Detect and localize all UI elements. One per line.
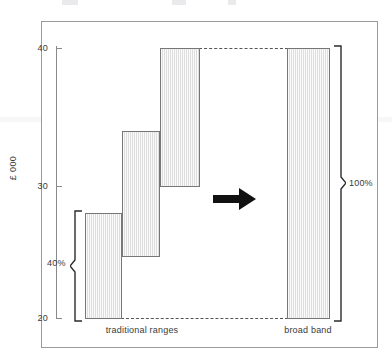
y-tick-label-20: 20 [26, 313, 48, 323]
y-tick-label-30: 30 [26, 181, 48, 191]
y-tick-30 [56, 186, 62, 187]
dashed-connector-bottom [121, 318, 288, 319]
scan-artifact [62, 0, 78, 5]
bar-traditional-range-1 [85, 213, 122, 319]
bracket-right-100-percent [333, 45, 346, 322]
bracket-label-40-percent: 40% [47, 258, 66, 268]
y-tick-label-40: 40 [26, 43, 48, 53]
bar-broad-band [287, 48, 330, 319]
scan-artifact [228, 0, 236, 5]
dashed-connector-top [199, 48, 288, 49]
bar-traditional-range-3 [160, 48, 200, 187]
chart-figure: 40 30 20 £ 000 40% 100% traditional rang… [0, 0, 392, 361]
bar-traditional-range-2 [122, 131, 160, 257]
y-axis-line [56, 46, 57, 319]
scan-artifact [172, 0, 186, 5]
bracket-left-40-percent [70, 210, 83, 322]
right-arrow-icon [213, 188, 256, 210]
category-label-traditional-ranges: traditional ranges [82, 325, 202, 335]
y-tick-20 [56, 318, 62, 319]
bracket-label-100-percent: 100% [349, 178, 373, 188]
y-axis-title: £ 000 [8, 148, 18, 188]
category-label-broad-band: broad band [268, 325, 348, 335]
y-tick-40 [56, 48, 62, 49]
